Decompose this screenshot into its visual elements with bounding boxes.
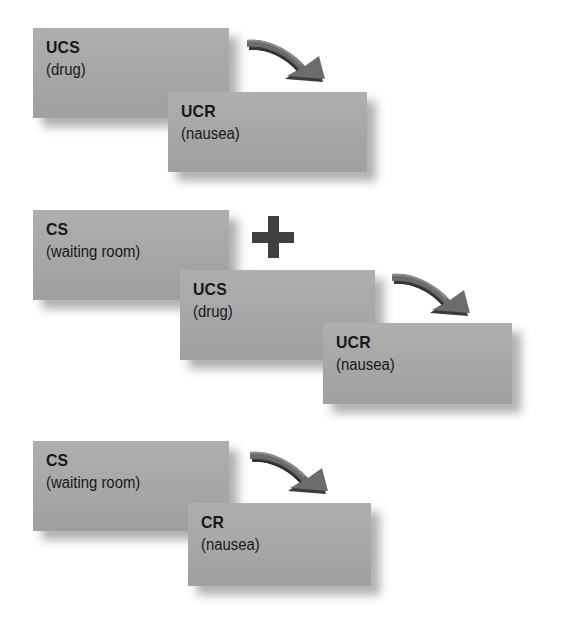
box-desc: (drug) (193, 303, 233, 321)
box-label-block: CS (waiting room) (46, 220, 147, 261)
box-label-block: UCS (drug) (193, 280, 236, 321)
box-ucr-row2: UCR (nausea) (323, 323, 512, 404)
box-ucr-row1: UCR (nausea) (168, 92, 367, 172)
box-code: UCR (336, 333, 395, 352)
box-code: CR (201, 513, 260, 532)
diagram-canvas: UCS (drug) UCR (nausea) CS (waiting room… (0, 0, 562, 634)
plus-sign-row2 (252, 216, 294, 258)
leads-to-arrow-row3 (248, 450, 340, 502)
box-label-block: CR (nausea) (201, 513, 264, 554)
box-desc: (waiting room) (46, 474, 140, 492)
box-label-block: UCR (nausea) (181, 102, 244, 143)
box-desc: (waiting room) (46, 243, 140, 261)
box-label-block: UCS (drug) (46, 38, 89, 79)
box-desc: (nausea) (336, 356, 395, 374)
box-code: CS (46, 220, 140, 239)
leads-to-arrow-row1 (245, 38, 337, 90)
box-desc: (drug) (46, 61, 86, 79)
box-label-block: UCR (nausea) (336, 333, 399, 374)
box-desc: (nausea) (201, 536, 260, 554)
leads-to-arrow-row2 (390, 272, 482, 324)
box-code: CS (46, 451, 140, 470)
box-cr-row3: CR (nausea) (188, 503, 371, 586)
plus-vertical-bar (268, 216, 279, 258)
box-code: UCS (193, 280, 233, 299)
box-label-block: CS (waiting room) (46, 451, 147, 492)
box-code: UCR (181, 102, 240, 121)
box-desc: (nausea) (181, 125, 240, 143)
box-code: UCS (46, 38, 86, 57)
